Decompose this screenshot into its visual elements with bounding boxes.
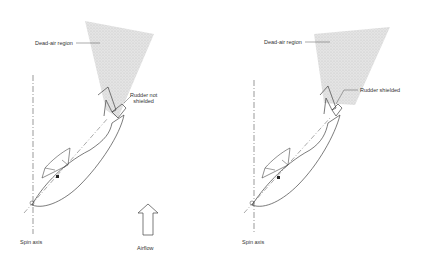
rudder-label-left: Rudder not shielded (130, 92, 157, 104)
right-figure (244, 27, 390, 234)
rudder-label-left-line2: shielded (130, 98, 157, 104)
body-axis-right (244, 118, 330, 213)
dead-air-label-right: Dead-air region (264, 39, 302, 45)
up-arrow-icon (138, 204, 158, 235)
left-figure (24, 21, 154, 234)
fuselage-right (252, 115, 340, 206)
body-axis-left (24, 118, 108, 213)
cg-marker-right (277, 176, 280, 179)
airflow-label: Airflow (137, 245, 154, 251)
rudder-right (332, 104, 342, 116)
spin-axis-label-right: Spin axis (242, 239, 264, 245)
dead-air-region-right (314, 27, 390, 105)
spin-axis-label-left: Spin axis (20, 239, 42, 245)
fuselage-left (32, 115, 124, 206)
rudder-label-right: Rudder shielded (360, 87, 400, 93)
dead-air-label-left: Dead-air region (35, 40, 73, 46)
